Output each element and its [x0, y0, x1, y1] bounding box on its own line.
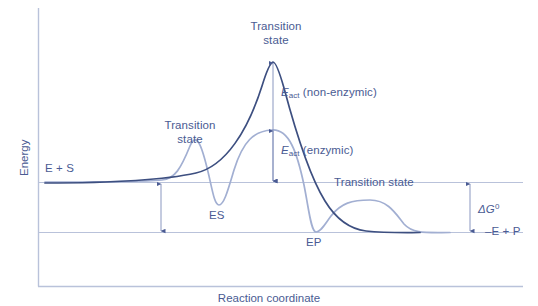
transition-state-1-line1: Transition [164, 119, 215, 131]
ep-complex-label: EP [306, 236, 322, 249]
eact-enzymic-symbol: E [281, 144, 289, 156]
y-axis-label: Energy [18, 140, 30, 176]
eact-non-enzymic-symbol: E [281, 86, 289, 98]
transition-state-3-label: Transition state [334, 176, 414, 189]
energy-diagram-figure: Energy Reaction coordinate E + S –E + P … [0, 0, 538, 306]
eact-non-enzymic-subscript: act [289, 91, 300, 100]
transition-state-2-line2: state [263, 34, 288, 46]
eact-non-enzymic-rest: (non-enzymic) [299, 86, 376, 98]
es-complex-label: ES [209, 209, 225, 222]
transition-state-2-line1: Transition [250, 20, 301, 32]
transition-state-1-line2: state [177, 133, 202, 145]
delta-g-superscript: 0 [495, 202, 500, 211]
delta-g-label: ΔG0 [478, 200, 499, 216]
eact-enzymic-label: Eact (enzymic) [281, 144, 353, 160]
reactants-label: E + S [45, 162, 74, 175]
eact-non-enzymic-label: Eact (non-enzymic) [281, 86, 377, 102]
products-label: –E + P [485, 225, 520, 238]
eact-enzymic-rest: (enzymic) [299, 144, 353, 156]
reference-lines [39, 183, 523, 233]
transition-state-2-label: Transition state [250, 19, 301, 47]
delta-g-symbol: ΔG [478, 203, 495, 215]
transition-state-1-label: Transition state [164, 118, 215, 146]
eact-enzymic-subscript: act [289, 149, 300, 158]
x-axis-label: Reaction coordinate [218, 292, 320, 304]
